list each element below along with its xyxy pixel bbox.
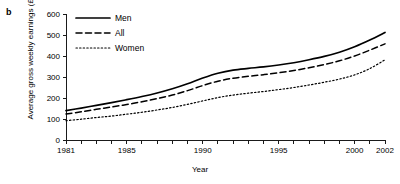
x-tick-label: 1990 [194, 146, 212, 155]
x-tick-label: 1981 [57, 146, 75, 155]
figure-panel-b: b Average gross weekly earnings (£) Year… [0, 0, 400, 184]
legend-label-women: Women [115, 43, 144, 53]
x-tick-label: 2002 [376, 146, 394, 155]
y-axis-ticks [63, 14, 67, 140]
chart-legend: MenAllWomen [76, 13, 144, 53]
y-tick-label: 400 [47, 52, 61, 61]
x-axis-ticks [66, 140, 385, 144]
legend-label-men: Men [115, 13, 132, 23]
x-tick-label: 2000 [346, 146, 364, 155]
series-line-all [66, 44, 385, 114]
y-axis: 0100200300400500600 [47, 10, 66, 145]
series-line-men [66, 32, 385, 110]
y-tick-label: 600 [47, 10, 61, 19]
line-chart: 0100200300400500600 19811985199019952000… [0, 0, 400, 184]
y-tick-label: 100 [47, 115, 61, 124]
y-tick-label: 300 [47, 73, 61, 82]
x-tick-label: 1995 [270, 146, 288, 155]
y-tick-label: 200 [47, 94, 61, 103]
x-tick-label: 1985 [118, 146, 136, 155]
y-tick-label: 500 [47, 31, 61, 40]
x-axis-tick-labels: 198119851990199520002002 [57, 146, 394, 155]
legend-label-all: All [115, 28, 125, 38]
y-tick-label: 0 [56, 136, 61, 145]
series-line-women [66, 60, 385, 121]
data-series-group [66, 32, 385, 120]
y-axis-tick-labels: 0100200300400500600 [47, 10, 61, 145]
x-axis: 198119851990199520002002 [57, 140, 394, 155]
